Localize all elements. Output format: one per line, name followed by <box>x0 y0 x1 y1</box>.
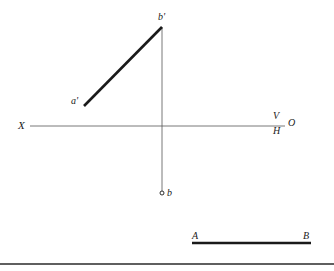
label-point-b: B <box>303 231 309 241</box>
frontal-projection-line-ab <box>84 27 162 106</box>
label-point-a: A <box>192 231 198 241</box>
label-b-prime: b' <box>158 12 165 22</box>
label-v-plane: V <box>273 111 279 121</box>
label-origin-o: O <box>288 118 295 128</box>
projection-diagram <box>0 0 334 271</box>
label-h-plane: H <box>273 126 280 136</box>
horizontal-projection-point-b <box>160 191 164 195</box>
label-x-axis: X <box>18 120 25 131</box>
label-a-prime: a' <box>71 96 78 106</box>
label-b: b <box>167 188 172 198</box>
